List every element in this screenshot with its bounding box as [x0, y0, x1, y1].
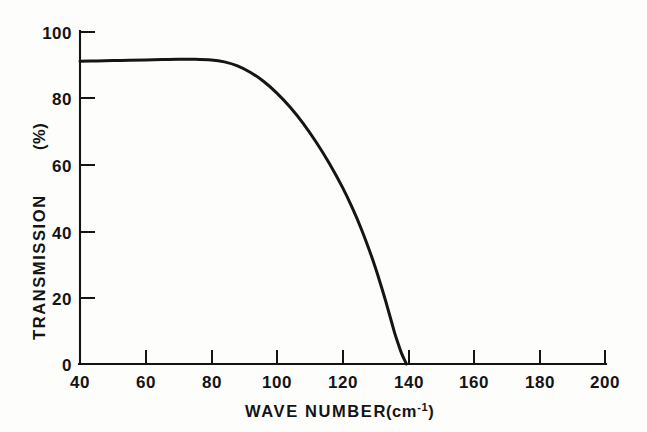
transmission-curve [80, 59, 406, 364]
axes-group [79, 31, 606, 364]
x-tick-label-60: 60 [136, 373, 156, 392]
y-axis-title: TRANSMISSION [30, 194, 48, 340]
y-axis-ticks [80, 32, 95, 298]
x-axis-title: WAVE NUMBER [245, 402, 387, 420]
x-axis-tick-labels: 40 60 80 100 120 140 160 180 200 [70, 373, 620, 392]
data-series-group [80, 59, 406, 364]
x-tick-label-200: 200 [590, 373, 620, 392]
x-axis-title-group: WAVE NUMBER (cm-1) [245, 401, 434, 420]
x-tick-label-40: 40 [70, 373, 90, 392]
x-tick-label-120: 120 [328, 373, 358, 392]
x-axis-units: (cm-1) [386, 401, 434, 420]
y-tick-label-60: 60 [52, 157, 72, 176]
x-tick-label-160: 160 [459, 373, 489, 392]
x-tick-label-140: 140 [394, 373, 424, 392]
figure-canvas: 100 80 60 40 20 0 40 60 80 100 120 140 1 [0, 0, 647, 432]
y-tick-label-100: 100 [42, 24, 72, 43]
x-tick-label-180: 180 [525, 373, 555, 392]
y-axis-title-group: TRANSMISSION (%) [30, 123, 48, 340]
x-axis-units-close: ) [428, 402, 434, 420]
x-axis-ticks [146, 350, 605, 364]
x-axis-units-open: (cm [386, 402, 417, 420]
x-axis-units-exponent: -1 [417, 401, 428, 413]
y-tick-label-20: 20 [52, 290, 72, 309]
y-axis-units: (%) [30, 123, 48, 150]
y-tick-label-40: 40 [52, 224, 72, 243]
x-tick-label-100: 100 [262, 373, 292, 392]
transmission-vs-wavenumber-chart: 100 80 60 40 20 0 40 60 80 100 120 140 1 [0, 0, 647, 432]
y-tick-label-80: 80 [52, 90, 72, 109]
x-tick-label-80: 80 [202, 373, 222, 392]
